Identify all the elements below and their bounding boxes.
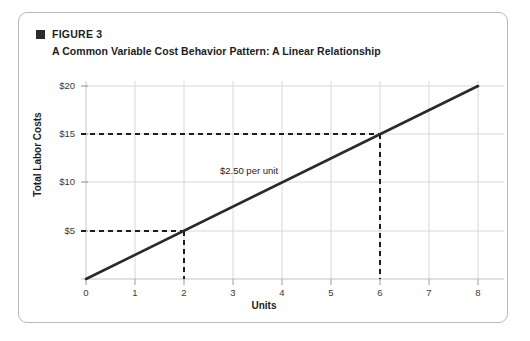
x-tick-label-4: 4 — [273, 287, 291, 298]
y-tick-marks — [81, 86, 88, 231]
chart-plot-area: $20 $15 $10 $5 0 1 2 3 4 5 6 7 8 Total L… — [19, 13, 509, 324]
x-tick-label-3: 3 — [224, 287, 242, 298]
x-tick-marks — [86, 279, 478, 285]
y-tick-label-5: $5 — [45, 225, 75, 236]
x-tick-label-6: 6 — [371, 287, 389, 298]
x-tick-label-5: 5 — [322, 287, 340, 298]
figure-card: FIGURE 3 A Common Variable Cost Behavior… — [18, 12, 508, 323]
y-tick-label-20: $20 — [45, 80, 75, 91]
x-axis-title: Units — [19, 300, 509, 311]
x-tick-label-1: 1 — [126, 287, 144, 298]
y-axis-title: Total Labor Costs — [32, 105, 43, 205]
slope-annotation: $2.50 per unit — [169, 165, 329, 176]
x-tick-label-8: 8 — [469, 287, 487, 298]
x-tick-label-0: 0 — [77, 287, 95, 298]
x-tick-label-2: 2 — [175, 287, 193, 298]
y-tick-label-15: $15 — [45, 128, 75, 139]
y-gridlines — [86, 86, 504, 231]
y-tick-label-10: $10 — [45, 176, 75, 187]
x-tick-label-7: 7 — [420, 287, 438, 298]
